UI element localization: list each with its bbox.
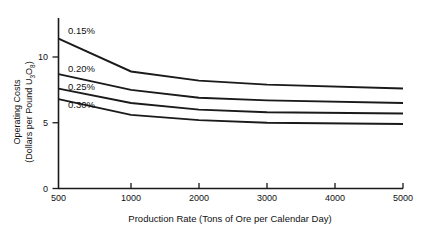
series-label-0-20pct: 0.20% — [68, 63, 95, 74]
y-axis-title-oxygen: O — [24, 68, 34, 75]
y-axis-title-line2: (Dollars per Pound U3O8) — [24, 61, 36, 162]
x-axis-tick-labels: 50010002000300040005000 — [51, 193, 413, 203]
series-labels: 0.15%0.20%0.25%0.30% — [68, 25, 95, 110]
y-axis-title-paren: ) — [24, 61, 34, 64]
operating-costs-chart: 0510 50010002000300040005000 0.15%0.20%0… — [0, 0, 422, 235]
x-tick-label-3000: 3000 — [257, 193, 277, 203]
series-label-0-15pct: 0.15% — [68, 25, 95, 36]
y-axis: 0510 — [38, 18, 59, 194]
x-tick-label-1000: 1000 — [121, 193, 141, 203]
x-axis-title: Production Rate (Tons of Ore per Calenda… — [128, 213, 331, 224]
chart-canvas: 0510 50010002000300040005000 0.15%0.20%0… — [0, 0, 422, 235]
y-axis-ticks — [53, 57, 59, 189]
series-label-0-25pct: 0.25% — [68, 81, 95, 92]
x-axis-ticks — [131, 183, 403, 189]
x-tick-label-2000: 2000 — [189, 193, 209, 203]
series-label-0-30pct: 0.30% — [68, 99, 95, 110]
y-tick-label-10: 10 — [38, 52, 48, 62]
y-tick-label-5: 5 — [43, 118, 48, 128]
x-tick-label-4000: 4000 — [325, 193, 345, 203]
y-tick-label-0: 0 — [43, 184, 48, 194]
y-axis-title-line1: Operating Costs — [12, 79, 22, 145]
data-curves — [59, 39, 404, 124]
x-tick-label-500: 500 — [51, 193, 66, 203]
y-axis-tick-labels: 0510 — [38, 52, 48, 194]
x-axis: 50010002000300040005000 — [51, 183, 413, 203]
x-tick-label-5000: 5000 — [393, 193, 413, 203]
y-axis-title-main: (Dollars per Pound U — [24, 79, 34, 163]
y-axis-title: Operating Costs (Dollars per Pound U3O8) — [12, 61, 36, 162]
curve-0-15pct — [59, 39, 404, 89]
